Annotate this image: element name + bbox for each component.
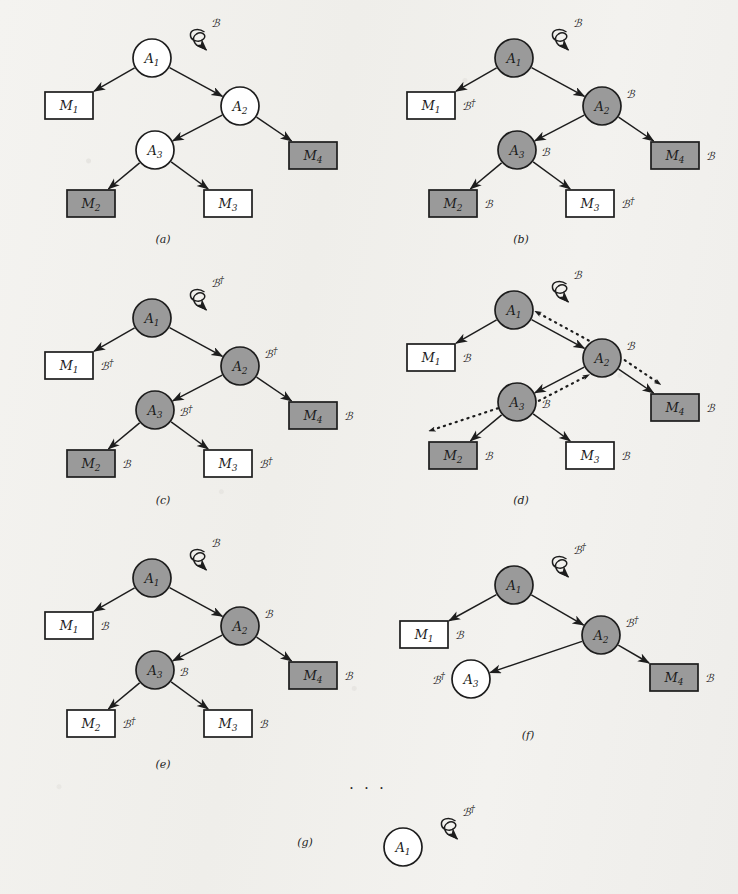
label-main: M xyxy=(217,196,232,211)
agent-node-A3-c[interactable]: A3ℬ† xyxy=(136,391,193,429)
beta-symbol: ℬ xyxy=(211,537,221,550)
agent-node-A2-c[interactable]: A2ℬ† xyxy=(221,346,278,386)
edge-A1-M1 xyxy=(449,595,496,621)
message-box-M4-f[interactable]: M4ℬ xyxy=(650,664,715,691)
label-subscript: 1 xyxy=(516,58,522,68)
agent-node-annotation: ℬ† xyxy=(179,404,193,420)
edge-A3-M3 xyxy=(171,422,208,449)
message-box-M1-e[interactable]: M1ℬ xyxy=(45,612,110,639)
label-main: A xyxy=(394,840,404,855)
edge-A2-A3 xyxy=(173,375,222,401)
agent-node-A1-f[interactable]: A1 xyxy=(495,566,533,604)
message-box-M1-d[interactable]: M1ℬ xyxy=(407,344,472,371)
message-box-M2-d[interactable]: M2ℬ xyxy=(429,442,494,469)
message-box-M3-e[interactable]: M3ℬ xyxy=(204,710,269,737)
agent-node-A2-e[interactable]: A2ℬ xyxy=(221,607,274,645)
label-main: A xyxy=(505,578,515,593)
label-subscript: 3 xyxy=(519,150,525,160)
agent-node-A1-c[interactable]: A1 xyxy=(133,299,171,337)
beta-symbol: ℬ xyxy=(621,450,631,463)
label-subscript: 4 xyxy=(678,155,685,165)
root-input-arrow-a: ℬ xyxy=(190,17,220,50)
label-main: A xyxy=(231,359,241,374)
label-subscript: 3 xyxy=(232,723,238,733)
agent-node-A3-a[interactable]: A3 xyxy=(136,131,174,169)
agent-node-A2-b[interactable]: A2ℬ xyxy=(583,87,636,125)
panel-c: M1ℬ†M4ℬM2ℬM3ℬ†A1A2ℬ†A3ℬ†ℬ†(c) xyxy=(45,275,354,508)
message-box-M2-b[interactable]: M2ℬ xyxy=(429,190,494,217)
root-input-arrow-e: ℬ xyxy=(190,537,220,570)
message-box-M3-a[interactable]: M3 xyxy=(204,190,252,217)
edge-A1-M1 xyxy=(94,68,135,91)
message-box-M1-a[interactable]: M1 xyxy=(45,92,93,119)
agent-node-annotation: ℬ xyxy=(541,398,551,411)
label-main: M xyxy=(58,358,73,373)
message-box-annotation: ℬ xyxy=(621,450,631,463)
message-box-annotation: ℬ xyxy=(484,198,494,211)
edge-A2-M4 xyxy=(257,377,292,401)
label-subscript: 4 xyxy=(316,415,323,425)
edge-A1-M1 xyxy=(94,588,135,611)
message-box-M1-b[interactable]: M1ℬ† xyxy=(407,92,476,119)
label-main: A xyxy=(593,351,603,366)
label-subscript: 1 xyxy=(405,847,411,857)
agent-node-A1-d[interactable]: A1 xyxy=(495,291,533,329)
beta-symbol: ℬ xyxy=(462,352,472,365)
label-subscript: 1 xyxy=(428,634,434,644)
root-input-arrow-c: ℬ† xyxy=(190,275,224,311)
agent-node-A2-d[interactable]: A2ℬ xyxy=(583,339,636,377)
agent-node-A3-f[interactable]: A3ℬ† xyxy=(432,660,491,698)
edge-A1-A2 xyxy=(170,328,223,357)
panel-b: M1ℬ†M4ℬM2ℬM3ℬ†A1A2ℬA3ℬℬ(b) xyxy=(407,17,716,246)
label-main: A xyxy=(146,663,156,678)
message-box-M1-c[interactable]: M1ℬ† xyxy=(45,352,114,379)
label-main: A xyxy=(462,672,472,687)
agent-node-A1-b[interactable]: A1 xyxy=(495,39,533,77)
agent-node-A1-e[interactable]: A1 xyxy=(133,559,171,597)
beta-symbol: ℬ xyxy=(344,670,354,683)
label-subscript: 1 xyxy=(154,578,160,588)
agent-node-A1-a[interactable]: A1 xyxy=(133,39,171,77)
message-box-M1-f[interactable]: M1ℬ xyxy=(400,621,465,648)
message-box-M3-b[interactable]: M3ℬ† xyxy=(566,190,635,217)
label-main: M xyxy=(420,98,435,113)
message-box-M3-c[interactable]: M3ℬ† xyxy=(204,450,273,477)
panel-e: M1ℬM4ℬM2ℬ†M3ℬA1A2ℬA3ℬℬ(e) xyxy=(45,537,354,771)
beta-symbol: ℬ xyxy=(706,402,716,415)
dagger-symbol: † xyxy=(471,804,476,814)
message-box-M4-d[interactable]: M4ℬ xyxy=(651,394,716,421)
edge-A2-A3 xyxy=(173,635,222,661)
edge-A3-M3 xyxy=(171,682,208,709)
message-box-M2-e[interactable]: M2ℬ† xyxy=(67,710,136,737)
beta-symbol: ℬ xyxy=(344,410,354,423)
label-subscript: 2 xyxy=(603,106,610,116)
root-input-arrow-g: ℬ† xyxy=(441,804,475,840)
root-input-arrow-f: ℬ† xyxy=(552,542,586,578)
agent-node-A1-g[interactable]: A1 xyxy=(384,828,422,866)
dagger-symbol: † xyxy=(630,196,635,206)
root-input-label: ℬ xyxy=(211,17,221,30)
edge-A3-M3 xyxy=(533,414,570,441)
agent-node-annotation: ℬ† xyxy=(432,671,446,687)
message-box-M2-a[interactable]: M2 xyxy=(67,190,115,217)
label-subscript: 1 xyxy=(154,318,160,328)
dagger-symbol: † xyxy=(268,456,273,466)
edge-A3-M3 xyxy=(533,162,570,189)
edge-A1-A2 xyxy=(531,595,583,625)
squiggle-path xyxy=(552,29,568,50)
agent-node-A2-f[interactable]: A2ℬ† xyxy=(582,615,639,655)
message-box-M2-c[interactable]: M2ℬ xyxy=(67,450,132,477)
agent-node-A2-a[interactable]: A2 xyxy=(221,87,259,125)
message-box-M4-e[interactable]: M4ℬ xyxy=(289,662,354,689)
label-main: A xyxy=(231,619,241,634)
edge-A3-M3 xyxy=(171,162,208,189)
message-box-M4-c[interactable]: M4ℬ xyxy=(289,402,354,429)
root-input-label: ℬ xyxy=(573,17,583,30)
agent-tree-figure: M1M4M2M3A1A2A3ℬ(a)M1ℬ†M4ℬM2ℬM3ℬ†A1A2ℬA3ℬ… xyxy=(0,0,738,894)
squiggle-path xyxy=(190,29,206,50)
message-box-M4-a[interactable]: M4 xyxy=(289,142,337,169)
message-box-M3-d[interactable]: M3ℬ xyxy=(566,442,631,469)
message-box-M4-b[interactable]: M4ℬ xyxy=(651,142,716,169)
label-subscript: 1 xyxy=(73,365,79,375)
label-main: M xyxy=(80,196,95,211)
